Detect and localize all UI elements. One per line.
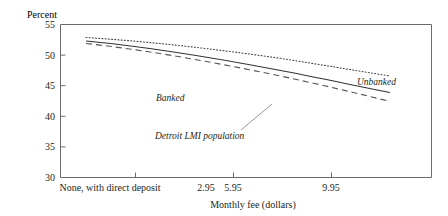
series-label-banked: Banked [156,93,185,103]
y-tick-labels: 55 50 45 40 35 30 [45,19,55,183]
chart-container: Percent 55 50 45 40 35 30 [0,0,448,216]
y-tick-label-55: 55 [45,19,55,30]
annotation-leader-detroit [241,104,272,130]
x-tick-label-595: 5.95 [224,182,242,193]
line-chart: Percent 55 50 45 40 35 30 [0,0,448,216]
series-line-detroit [86,44,390,102]
y-tick-label-35: 35 [45,141,55,152]
x-tick-marks [136,173,332,178]
y-tick-marks [61,55,66,147]
y-tick-label-50: 50 [45,50,55,61]
y-tick-label-45: 45 [45,80,55,91]
x-tick-label-995: 9.95 [322,182,340,193]
series-line-unbanked [86,38,390,77]
x-axis-title: Monthly fee (dollars) [210,199,296,211]
y-tick-label-40: 40 [45,111,55,122]
series-label-unbanked: Unbanked [357,77,396,87]
x-tick-label-295-visible: 2.95 [197,182,215,193]
series-label-detroit: Detroit LMI population [154,131,245,141]
y-tick-label-30: 30 [45,172,55,183]
x-tick-label-none: None, with direct deposit [59,182,160,193]
